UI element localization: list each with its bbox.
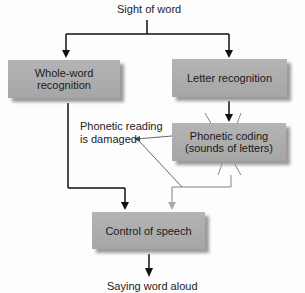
node-letter-recognition: Letter recognition bbox=[172, 59, 287, 97]
diagram-canvas: Sight of word Whole-word recognition Let… bbox=[0, 0, 305, 293]
output-label: Saying word aloud bbox=[107, 280, 198, 293]
node-phonetic-coding: Phonetic coding (sounds of letters) bbox=[172, 123, 286, 161]
node-label: Whole-word recognition bbox=[8, 67, 120, 91]
annotation-line2: is damaged bbox=[80, 133, 163, 146]
node-label: Letter recognition bbox=[187, 72, 272, 84]
node-control-of-speech: Control of speech bbox=[92, 212, 205, 249]
node-label: Control of speech bbox=[105, 225, 191, 237]
annotation-line1: Phonetic reading bbox=[80, 120, 163, 133]
node-label-line1: Phonetic coding bbox=[190, 130, 268, 142]
damage-annotation: Phonetic reading is damaged bbox=[80, 120, 163, 146]
node-label-line2: (sounds of letters) bbox=[185, 142, 273, 154]
input-label: Sight of word bbox=[117, 3, 181, 16]
node-whole-word-recognition: Whole-word recognition bbox=[8, 60, 120, 98]
